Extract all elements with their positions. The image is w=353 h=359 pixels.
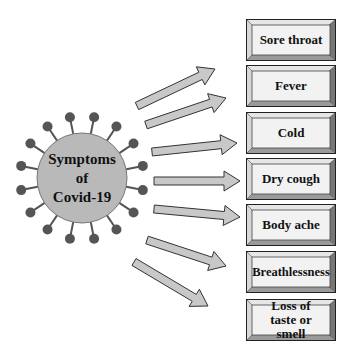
symptom-box-fever: Fever (246, 65, 336, 107)
symptom-box-cold: Cold (246, 112, 336, 154)
arrow-icon (154, 171, 240, 191)
symptom-box-sore-throat: Sore throat (246, 19, 336, 61)
symptom-label: Fever (252, 71, 330, 101)
symptom-box-loss-of-taste-or-smell: Loss of taste or smell (246, 299, 336, 341)
arrow-icon (146, 236, 226, 270)
symptom-label: Breathlessness (252, 257, 330, 287)
arrows (132, 67, 240, 307)
arrow-icon (154, 205, 240, 225)
virus-label-line-1: Symptoms (37, 150, 127, 169)
symptom-label: Sore throat (252, 25, 330, 55)
symptom-box-dry-cough: Dry cough (246, 158, 336, 200)
arrow-icon (152, 135, 237, 156)
symptom-box-breathlessness: Breathlessness (246, 251, 336, 293)
symptom-label: Loss of taste or smell (252, 305, 330, 335)
symptom-label: Cold (252, 118, 330, 148)
virus-label-line-3: Covid-19 (37, 188, 127, 207)
symptom-box-body-ache: Body ache (246, 204, 336, 246)
symptom-label: Body ache (252, 210, 330, 240)
covid-symptoms-diagram: Symptoms of Covid-19 Sore throat Fever C… (0, 0, 353, 359)
arrow-icon (132, 259, 208, 307)
virus-label: Symptoms of Covid-19 (37, 150, 127, 207)
virus-label-line-2: of (37, 169, 127, 188)
symptom-label: Dry cough (252, 164, 330, 194)
